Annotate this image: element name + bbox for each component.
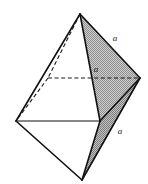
octahedron-figure: a a a [0, 0, 148, 184]
edge-label-upper-right: a [113, 34, 118, 43]
octahedron-svg [0, 0, 148, 184]
edge-label-lower-right: a [118, 127, 123, 136]
edge-label-back-right: a [94, 65, 99, 74]
